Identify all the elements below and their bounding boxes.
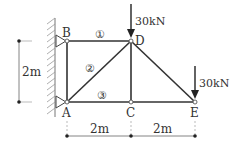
member-DE bbox=[131, 41, 195, 102]
member-label-3: ③ bbox=[97, 89, 107, 102]
arrow-down-icon bbox=[127, 29, 135, 38]
horizontal-dimension-label-1: 2m bbox=[90, 122, 110, 136]
horizontal-dimension-label-2: 2m bbox=[153, 122, 173, 136]
node-label-C: C bbox=[126, 106, 135, 120]
load-E bbox=[191, 66, 199, 99]
truss-diagram: B D A C E ① ② ③ 30kN 30kN 2m 2m 2m bbox=[0, 0, 240, 149]
vertical-dimension-label: 2m bbox=[22, 65, 42, 79]
member-label-2: ② bbox=[85, 62, 95, 75]
horizontal-dimension: 2m 2m bbox=[65, 121, 197, 138]
node-label-A: A bbox=[61, 106, 71, 120]
node-label-B: B bbox=[62, 26, 71, 40]
node-label-D: D bbox=[135, 34, 145, 48]
load-label-D: 30kN bbox=[135, 15, 166, 28]
vertical-dimension: 2m bbox=[17, 39, 41, 104]
node-D bbox=[129, 39, 133, 43]
load-D bbox=[127, 4, 135, 38]
member-label-1: ① bbox=[95, 28, 105, 41]
node-E bbox=[193, 100, 197, 104]
node-label-E: E bbox=[190, 106, 199, 120]
arrow-down-icon bbox=[191, 90, 199, 99]
node-A bbox=[65, 100, 69, 104]
node-C bbox=[129, 100, 133, 104]
load-label-E: 30kN bbox=[199, 77, 230, 90]
wall bbox=[47, 18, 55, 117]
